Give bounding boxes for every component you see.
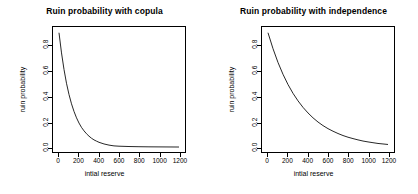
plot-area bbox=[261, 26, 395, 153]
data-curve-svg bbox=[53, 27, 185, 152]
x-axis-tick-label: 400 bbox=[93, 158, 104, 165]
x-axis: 020040060080010001200 bbox=[261, 153, 395, 163]
y-axis-tick-label: 0.0 bbox=[43, 143, 50, 152]
x-axis-tick-label: 600 bbox=[114, 158, 125, 165]
x-axis-tick-label: 1000 bbox=[361, 158, 375, 165]
panel-independence: Ruin probability with independence ruin … bbox=[209, 0, 418, 194]
y-axis-title: ruin probability bbox=[227, 26, 237, 153]
x-axis-tick-label: 800 bbox=[343, 158, 354, 165]
panel-title: Ruin probability with independence bbox=[209, 6, 418, 16]
y-axis-tick-label: 0.4 bbox=[43, 91, 50, 100]
data-curve-svg bbox=[262, 27, 394, 152]
y-axis-title: ruin probability bbox=[18, 26, 28, 153]
y-axis-tick-label: 0.8 bbox=[252, 40, 259, 49]
y-axis-tick-label: 0.2 bbox=[252, 117, 259, 126]
y-axis-tick-label: 0.6 bbox=[43, 65, 50, 74]
x-axis-title: intial reserve bbox=[209, 170, 418, 177]
y-axis: 0.00.20.40.60.8 bbox=[252, 26, 261, 153]
x-axis-tick-label: 400 bbox=[302, 158, 313, 165]
x-axis-tick-label: 0 bbox=[56, 158, 60, 165]
y-axis-tick-label: 0.0 bbox=[252, 143, 259, 152]
x-axis-tick-label: 1200 bbox=[173, 158, 187, 165]
x-axis-tick-label: 600 bbox=[323, 158, 334, 165]
y-axis: 0.00.20.40.60.8 bbox=[43, 26, 52, 153]
y-axis-tick-label: 0.6 bbox=[252, 65, 259, 74]
x-axis-title: intial reserve bbox=[0, 170, 209, 177]
y-axis-tick-label: 0.4 bbox=[252, 91, 259, 100]
panel-title: Ruin probability with copula bbox=[0, 6, 209, 16]
y-axis-title-label: ruin probability bbox=[20, 67, 27, 113]
data-curve bbox=[59, 33, 179, 147]
data-curve bbox=[268, 33, 388, 145]
x-axis: 020040060080010001200 bbox=[52, 153, 186, 163]
y-axis-tick-label: 0.8 bbox=[43, 40, 50, 49]
figure-two-panel-ruin-probability: Ruin probability with copula ruin probab… bbox=[0, 0, 418, 194]
x-axis-tick-label: 200 bbox=[73, 158, 84, 165]
y-axis-tick-label: 0.2 bbox=[43, 117, 50, 126]
x-axis-tick-label: 1200 bbox=[382, 158, 396, 165]
x-axis-tick-label: 0 bbox=[265, 158, 269, 165]
y-axis-title-label: ruin probability bbox=[229, 67, 236, 113]
x-axis-tick-label: 800 bbox=[134, 158, 145, 165]
x-axis-tick-label: 200 bbox=[282, 158, 293, 165]
x-axis-tick-label: 1000 bbox=[152, 158, 166, 165]
plot-area bbox=[52, 26, 186, 153]
panel-copula: Ruin probability with copula ruin probab… bbox=[0, 0, 209, 194]
